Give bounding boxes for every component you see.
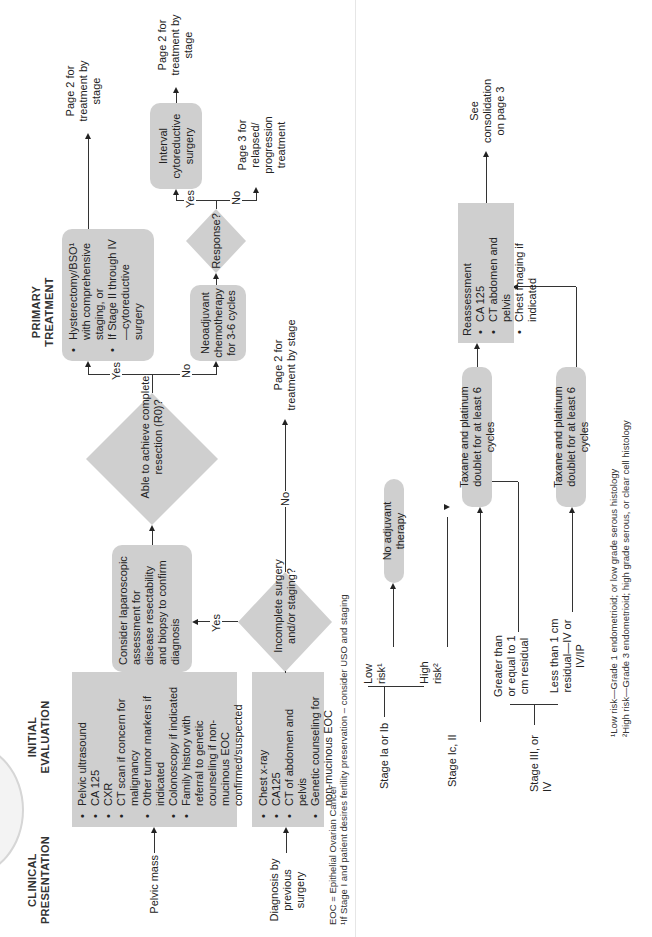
hysterectomy-item: If Stage II through IV—cytoreductive sur…	[106, 236, 145, 340]
header-primary-treatment: PRIMARY TREATMENT	[30, 262, 56, 362]
connector	[152, 529, 153, 545]
connector	[480, 513, 481, 722]
reassessment-box: Reassessment CA 125 CT abdomen and pelvi…	[458, 203, 514, 343]
initial-eval-item: Pelvic ultrasound	[76, 679, 89, 806]
ge-1cm-residual-label: Greater than or equal to 1 cm residual	[492, 631, 531, 701]
reassessment-title: Reassessment	[461, 210, 474, 336]
connector	[88, 374, 216, 375]
reassessment-item: Chest imaging if indicated	[513, 210, 539, 322]
connector	[393, 587, 394, 647]
decision-incomplete-surgery: Incomplete surgery and/or staging?	[238, 572, 332, 672]
connector	[447, 517, 448, 647]
taxane-platinum-box-2: Taxane and platinum doublet for at least…	[556, 367, 586, 507]
arrow-icon	[173, 189, 179, 195]
footnote-eoc: EOC = Epithelial Ovarian Cancer	[327, 786, 338, 925]
outcome-page2-interval: Page 2 for treatment by stage	[156, 5, 195, 85]
stage-1a-1b: Stage Ia or Ib	[378, 709, 391, 789]
outcome-page2-hysterectomy: Page 2 for treatment by stage	[64, 51, 103, 131]
initial-eval-item: CT scan if concern for malignancy	[115, 679, 141, 806]
arrow-icon	[173, 87, 179, 93]
arrow-icon	[253, 187, 259, 193]
arrow-icon	[283, 827, 289, 833]
footnote-high-risk: ²High risk—Grade 3 endometrioid; high gr…	[620, 420, 631, 737]
label-no: No	[180, 363, 192, 379]
decision-response: Response?	[186, 209, 246, 273]
interval-cytoreductive-box: Interval cytoreductive surgery	[150, 103, 202, 189]
arrow-icon	[483, 151, 489, 157]
initial-eval-item: CA 125	[89, 679, 102, 806]
connector	[285, 671, 286, 673]
outcome-page2-incomplete: Page 2 for treatment by stage	[272, 315, 298, 415]
flowchart-page: CLINICAL PRESENTATION INITIAL EVALUATION…	[0, 0, 652, 937]
connector	[492, 481, 518, 482]
footnote-fertility: ¹If Stage I and patient desires fertilit…	[338, 594, 349, 925]
arrow-icon	[282, 419, 288, 425]
connector	[534, 705, 535, 725]
no-adjuvant-therapy-box: No adjuvant therapy	[384, 479, 404, 583]
header-initial-evaluation: INITIAL EVALUATION	[26, 692, 52, 782]
connector	[152, 375, 153, 393]
label-yes: Yes	[210, 613, 222, 633]
low-risk-label: Low risk¹	[362, 644, 388, 684]
label-yes: Yes	[184, 189, 196, 209]
connector	[477, 347, 478, 367]
arrow-icon	[569, 507, 575, 513]
connector	[486, 155, 487, 203]
connector	[510, 704, 558, 705]
arrow-icon	[151, 827, 157, 833]
decision-r0-resection: Able to achieve complete resection (R0)?	[86, 393, 218, 525]
arrow-icon	[213, 273, 219, 279]
connector	[154, 831, 155, 853]
arrow-icon	[85, 361, 91, 367]
taxane-platinum-box-1: Taxane and platinum doublet for at least…	[462, 367, 492, 507]
header-clinical-presentation: CLINICAL PRESENTATION	[26, 835, 52, 925]
decorative-circle	[0, 743, 24, 877]
page-fold-line	[355, 0, 356, 937]
arrow-icon	[85, 133, 91, 139]
arrow-icon	[390, 583, 396, 589]
connector	[216, 201, 217, 209]
arrow-icon	[213, 361, 219, 367]
label-no: No	[279, 491, 291, 507]
initial-eval-item: Family history with referral to genetic …	[180, 679, 245, 806]
initial-eval-item: Colonoscopy if indicated	[167, 679, 180, 806]
arrow-icon	[192, 619, 198, 625]
arrow-icon	[474, 343, 480, 349]
label-no: No	[230, 190, 242, 206]
connector	[368, 686, 424, 687]
previous-surgery-item: CA125	[270, 679, 283, 806]
connector	[88, 137, 89, 229]
footnote-low-risk: ¹Low risk—Grade 1 endometrioid; or low g…	[608, 469, 619, 737]
initial-evaluation-box-full: Pelvic ultrasound CA 125 CXR CT scan if …	[72, 672, 237, 827]
stage-3-4: Stage III, or IV	[528, 722, 554, 792]
initial-eval-item: Other tumor markers if indicated	[141, 679, 167, 806]
label-yes: Yes	[110, 361, 122, 381]
reassessment-item: CT abdomen and pelvis	[487, 210, 513, 322]
arrow-icon	[149, 525, 155, 531]
reassessment-item: CA 125	[474, 210, 487, 322]
previous-surgery-item: Chest x-ray	[257, 679, 270, 806]
laparoscopic-assessment-box: Consider laparoscopic assessment for dis…	[112, 545, 192, 672]
high-risk-label: High risk²	[418, 644, 444, 684]
presentation-diagnosis-previous-surgery: Diagnosis by previous surgery	[268, 855, 307, 925]
connector	[576, 287, 577, 367]
previous-surgery-box: Chest x-ray CA125 CT of abdomen and pelv…	[252, 672, 324, 827]
presentation-pelvic-mass: Pelvic mass	[148, 855, 161, 925]
outcome-see-consolidation: See consolidation on page 3	[468, 73, 507, 149]
connector	[286, 831, 287, 853]
initial-eval-item: CXR	[102, 679, 115, 806]
connector	[572, 512, 573, 612]
connector	[518, 482, 519, 632]
arrow-icon	[444, 504, 450, 510]
previous-surgery-item: CT of abdomen and pelvis	[283, 679, 309, 806]
outcome-page3-relapsed: Page 3 for relapsed/ progression treatme…	[236, 105, 288, 185]
connector	[384, 687, 385, 717]
stage-1c-2: Stage Ic, II	[446, 717, 459, 787]
hysterectomy-box: Hysterectomy/BSO¹ with comprehensive sta…	[62, 229, 154, 361]
arrow-icon	[477, 507, 483, 513]
neoadjuvant-box: Neoadjuvant chemotherapy for 3-6 cycles	[190, 285, 246, 361]
lt-1cm-residual-label: Less than 1 cm residual—IV or IV/IP	[548, 611, 587, 701]
hysterectomy-item: Hysterectomy/BSO¹ with comprehensive sta…	[67, 236, 106, 340]
